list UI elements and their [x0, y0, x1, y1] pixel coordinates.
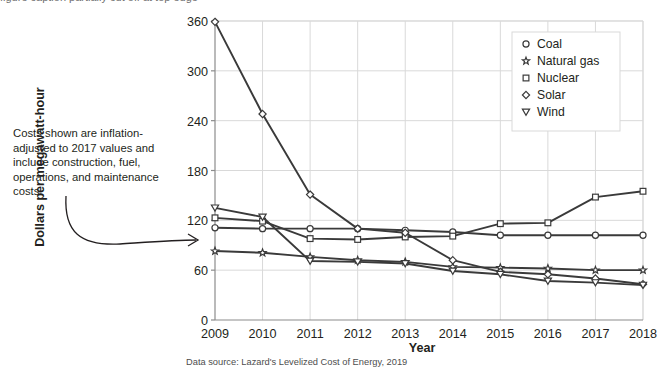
annotation-arrow	[66, 196, 198, 246]
data-point-marker	[640, 188, 646, 194]
data-point-marker	[640, 232, 646, 238]
data-point-marker	[545, 232, 551, 238]
data-point-marker	[211, 247, 218, 254]
y-axis-tick-label: 300	[187, 65, 208, 79]
legend-label: Nuclear	[537, 71, 579, 85]
y-axis-tick-label: 360	[187, 15, 208, 29]
x-axis-tick-label: 2018	[629, 327, 657, 341]
data-point-marker	[355, 237, 361, 243]
x-axis-tick-label: 2015	[486, 327, 514, 341]
data-point-marker	[212, 215, 218, 221]
line-chart-plot: 0601201802403003602009201020112012201320…	[0, 0, 662, 375]
x-axis-tick-label: 2011	[297, 327, 324, 341]
x-axis-tick-label: 2016	[534, 327, 562, 341]
legend-marker-square	[523, 75, 529, 81]
y-axis-tick-label: 180	[187, 165, 208, 179]
y-axis-tick-label: 60	[194, 264, 208, 278]
y-axis-tick-label: 0	[201, 314, 208, 328]
data-point-marker	[211, 18, 218, 25]
x-axis-tick-label: 2010	[249, 327, 277, 341]
series-nuclear	[212, 188, 646, 242]
legend-label: Coal	[537, 37, 562, 51]
chart-figure: figure caption partially cut off at top …	[0, 0, 662, 375]
x-axis-tick-label: 2009	[201, 327, 229, 341]
legend-label: Solar	[537, 88, 565, 102]
data-point-marker	[259, 249, 266, 256]
data-point-marker	[592, 266, 599, 273]
x-axis-tick-label: 2013	[391, 327, 419, 341]
data-point-marker	[259, 226, 265, 232]
annotation-arrow-curve	[66, 196, 196, 244]
data-point-marker	[593, 194, 599, 200]
data-point-marker	[307, 226, 313, 232]
data-point-marker	[450, 233, 456, 239]
data-point-marker	[497, 221, 503, 227]
data-point-marker	[212, 225, 218, 231]
data-point-marker	[307, 236, 313, 242]
data-point-marker	[592, 232, 598, 238]
data-point-marker	[639, 266, 646, 273]
chart-legend: CoalNatural gasNuclearSolarWind	[512, 32, 620, 131]
data-point-marker	[545, 220, 551, 226]
x-axis-tick-label: 2012	[344, 327, 372, 341]
y-axis-tick-label: 120	[187, 214, 208, 228]
data-point-marker	[497, 232, 503, 238]
legend-label: Natural gas	[537, 54, 599, 68]
legend-label: Wind	[537, 105, 565, 119]
y-axis-tick-label: 240	[187, 115, 208, 129]
series-natural-gas	[211, 247, 646, 273]
x-axis-tick-label: 2014	[439, 327, 467, 341]
legend-marker-circle	[523, 41, 529, 47]
x-axis-tick-label: 2017	[581, 327, 609, 341]
